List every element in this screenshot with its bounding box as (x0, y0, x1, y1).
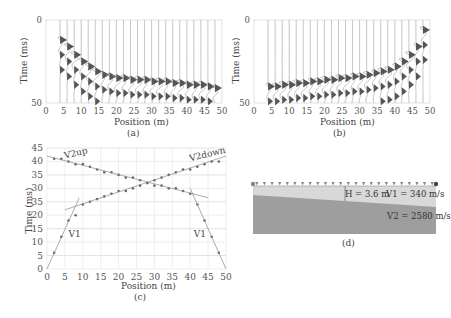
svg-text:10: 10 (32, 237, 44, 247)
x-axis-label-c: Position (m) (121, 282, 176, 291)
caption-c: (c) (134, 293, 146, 302)
svg-text:25: 25 (129, 106, 140, 116)
svg-text:35: 35 (164, 106, 175, 116)
svg-text:10: 10 (284, 106, 295, 116)
annotation-v2up: V2up (62, 145, 89, 161)
svg-text:50: 50 (239, 98, 250, 108)
traveltime-plot-c: 05101520253035404550051015203530354045V2… (0, 140, 240, 318)
svg-text:40: 40 (181, 106, 192, 116)
svg-text:50: 50 (31, 98, 42, 108)
svg-text:40: 40 (389, 106, 400, 116)
v2-label: V2 = 2580 m/s (387, 212, 451, 221)
y-axis-label-c: Time (ms) (25, 188, 34, 234)
svg-text:40: 40 (32, 156, 44, 166)
v1-label: V1 = 340 m/s (386, 190, 444, 199)
svg-text:30: 30 (354, 106, 365, 116)
svg-text:45: 45 (202, 272, 214, 282)
svg-text:20: 20 (111, 106, 122, 116)
svg-text:0: 0 (44, 272, 50, 282)
svg-text:25: 25 (337, 106, 348, 116)
panel-a: 05101520253035404550050 Time (ms) Positi… (0, 0, 223, 140)
y-axis-label-b: Time (ms) (232, 38, 241, 84)
svg-text:35: 35 (372, 106, 383, 116)
svg-text:35: 35 (32, 170, 44, 180)
svg-text:0: 0 (251, 106, 256, 116)
annotation-v1: V1 (67, 229, 80, 239)
svg-text:0: 0 (37, 15, 42, 25)
caption-d: (d) (342, 239, 355, 248)
svg-text:0: 0 (37, 264, 43, 274)
svg-text:5: 5 (62, 272, 68, 282)
caption-b: (b) (333, 129, 346, 138)
annotation-v1: V1 (193, 229, 206, 239)
y-axis-label-a: Time (ms) (20, 38, 29, 84)
svg-text:5: 5 (61, 106, 66, 116)
svg-text:45: 45 (407, 106, 418, 116)
svg-text:5: 5 (37, 251, 43, 261)
caption-a: (a) (127, 129, 139, 138)
svg-text:30: 30 (146, 106, 157, 116)
svg-text:50: 50 (425, 106, 436, 116)
panel-c: 05101520253035404550051015203530354045V2… (0, 140, 240, 318)
panel-b: 05101520253035404550050 Time (ms) Positi… (223, 0, 446, 140)
svg-text:0: 0 (43, 106, 48, 116)
panel-d: H = 3.6 m V1 = 340 m/s V2 = 2580 m/s (d) (250, 178, 446, 253)
svg-text:10: 10 (76, 106, 87, 116)
svg-text:45: 45 (199, 106, 210, 116)
svg-text:15: 15 (93, 106, 104, 116)
svg-text:5: 5 (269, 106, 274, 116)
svg-text:15: 15 (301, 106, 312, 116)
x-axis-label-a: Position (m) (114, 118, 169, 127)
svg-text:15: 15 (95, 272, 107, 282)
svg-text:10: 10 (77, 272, 89, 282)
thickness-label: H = 3.6 m (345, 190, 389, 199)
annotation-v2down: V2down (187, 145, 226, 164)
svg-text:50: 50 (220, 272, 232, 282)
x-axis-label-b: Position (m) (320, 118, 375, 127)
svg-text:20: 20 (319, 106, 330, 116)
svg-text:0: 0 (245, 15, 250, 25)
svg-text:45: 45 (32, 143, 44, 153)
svg-text:40: 40 (184, 272, 196, 282)
seismogram-a: 05101520253035404550050 (0, 0, 223, 140)
